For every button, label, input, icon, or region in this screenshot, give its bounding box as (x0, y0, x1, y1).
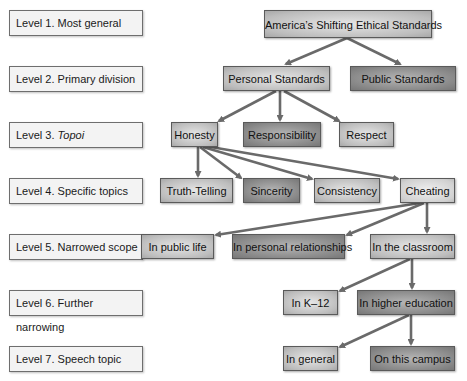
node-on-this-campus: On this campus (370, 346, 455, 371)
node-responsibility: Responsibility (243, 122, 321, 147)
node-cheating: Cheating (400, 178, 455, 203)
node-in-the-classroom: In the classroom (370, 234, 455, 259)
node-honesty: Honesty (171, 122, 218, 147)
node-in-higher-education: In higher education (357, 290, 455, 315)
connector-arrows (0, 0, 467, 381)
node-in-k12: In K–12 (283, 290, 338, 315)
node-in-public-life: In public life (141, 234, 214, 259)
node-in-general: In general (283, 346, 338, 371)
node-sincerity: Sincerity (243, 178, 300, 203)
node-truth-telling: Truth-Telling (160, 178, 233, 203)
node-public-standards: Public Standards (350, 66, 456, 91)
node-consistency: Consistency (314, 178, 380, 203)
node-in-personal-relationships: In personal relationships (232, 234, 345, 259)
node-personal-standards: Personal Standards (223, 66, 330, 91)
node-respect: Respect (339, 122, 394, 147)
node-root: America’s Shifting Ethical Standards (264, 10, 432, 38)
